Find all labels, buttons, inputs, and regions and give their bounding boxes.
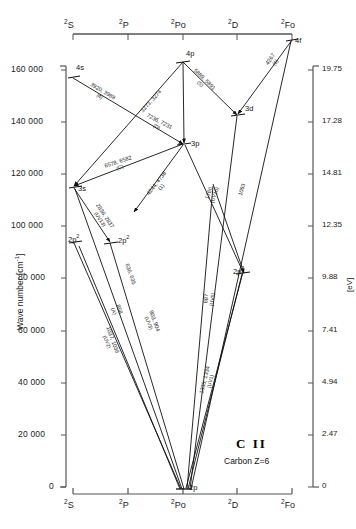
bottom-axis-label-2Fo-base: Fo: [285, 500, 296, 510]
transition-line-1063: [185, 145, 243, 272]
level-mark-3p: [177, 143, 191, 145]
transition-label-687: 687(UV5): [203, 292, 216, 307]
level-mark-2p2-P: [104, 242, 118, 244]
top-axis-label-2Fo-base: Fo: [285, 20, 296, 30]
right-axis: [313, 66, 319, 487]
transition-lines: [68, 39, 298, 489]
figure-title: C II: [236, 436, 267, 452]
level-mark-4s: [68, 76, 80, 78]
left-axis-ticks: [61, 70, 66, 487]
bottom-axis-label-2D-base: D: [232, 500, 239, 510]
level-mark-3d: [231, 114, 245, 116]
level-label-3s: 3s: [78, 184, 86, 193]
top-axis-label-2D: 2D: [228, 18, 238, 30]
transition-line-7236-7231: [183, 62, 184, 143]
right-tick-741: 7.41: [322, 325, 338, 334]
right-axis-ticks: [308, 70, 313, 487]
left-tick-100000: 100 000: [11, 220, 43, 230]
right-tick-494: 4.94: [322, 377, 338, 386]
top-axis-ticks: [73, 34, 292, 40]
top-axis-label-2S-base: S: [68, 20, 74, 30]
top-axis-label-2P-base: P: [123, 20, 129, 30]
right-axis-title: [eV]: [345, 278, 354, 292]
level-label-3p: 3p: [191, 139, 199, 148]
level-label-2p2-2D: 2p2: [233, 265, 244, 276]
bottom-axis-label-2S-base: S: [68, 500, 74, 510]
level-label-2p2-2S-sup: 2: [76, 233, 79, 239]
right-tick-0: 0: [322, 481, 326, 490]
y-axis-title: Wave number [cm-1]: [14, 254, 25, 330]
left-tick-160000: 160 000: [11, 64, 43, 74]
level-label-2p2-2S: 2p2: [68, 233, 79, 244]
top-axis-label-2S: 2S: [64, 18, 74, 30]
level-label-4s: 4s: [76, 63, 84, 72]
bottom-axis-label-2S: 2S: [64, 498, 74, 510]
bottom-axis-label-2Fo: 2Fo: [281, 498, 295, 510]
bottom-axis-label-2P: 2P: [119, 498, 129, 510]
grotrian-diagram-figure: 2S 2P 2Po 2D 2Fo 2S 2P 2Po 2D 2Fo 160 00…: [0, 0, 356, 529]
transition-line-903-904: [110, 243, 184, 489]
top-axis-label-2Po: 2Po: [171, 18, 186, 30]
top-axis-label-2D-base: D: [232, 20, 239, 30]
right-tick-1235: 12.35: [322, 220, 342, 229]
right-tick-247: 2.47: [322, 429, 338, 438]
bottom-axis-label-2D: 2D: [228, 498, 238, 510]
figure-subtitle: Carbon Z=6: [224, 456, 269, 466]
left-tick-20000: 20 000: [18, 429, 45, 439]
y-axis-title-text: Wave number [cm: [15, 261, 25, 330]
diagram-canvas: [0, 0, 356, 529]
level-label-4f: 4f: [295, 36, 301, 45]
left-tick-0: 0: [49, 481, 54, 491]
level-label-3d: 3d: [245, 104, 253, 113]
right-tick-1975: 19.75: [322, 64, 342, 73]
level-label-4p: 4p: [186, 49, 194, 58]
right-tick-1728: 17.28: [322, 116, 342, 125]
y-axis-unit-sup: -1: [14, 256, 20, 261]
left-axis: [60, 66, 66, 487]
left-tick-140000: 140 000: [11, 116, 43, 126]
top-axis-label-2Po-base: Po: [175, 20, 186, 30]
top-axis-label-2P: 2P: [119, 18, 129, 30]
left-tick-120000: 120 000: [11, 168, 43, 178]
right-tick-988: 9.88: [322, 272, 338, 281]
left-tick-40000: 40 000: [18, 377, 45, 387]
right-tick-1481: 14.81: [322, 168, 342, 177]
transition-line-4267: [238, 40, 292, 114]
y-axis-title-tail: ]: [15, 254, 25, 256]
transition-line-1760: [213, 184, 244, 273]
level-label-2p2-2P: 2p2: [118, 234, 129, 245]
bottom-axis-label-2Po-base: Po: [175, 500, 186, 510]
bottom-axis-label-2P-base: P: [123, 500, 129, 510]
bottom-axis-label-2Po: 2Po: [171, 498, 186, 510]
level-label-2p2-2P-sup: 2: [126, 234, 129, 240]
level-label-2p2-2D-sup: 2: [241, 265, 244, 271]
top-axis-label-2Fo: 2Fo: [281, 18, 295, 30]
level-label-2p-ground: 2p: [189, 483, 197, 492]
